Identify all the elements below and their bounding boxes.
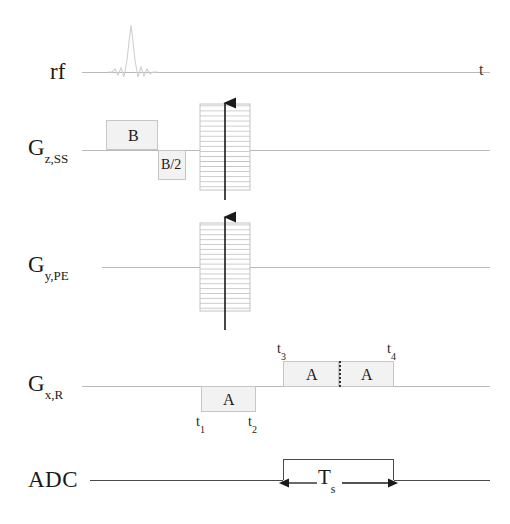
adc-duration-layer bbox=[0, 0, 510, 524]
ts-sub: s bbox=[331, 482, 336, 496]
ts-base: T bbox=[318, 465, 331, 489]
pulse-sequence-diagram: rf t Gz,SS B B/2 Gy,PE bbox=[0, 0, 510, 524]
ts-duration-label: Ts bbox=[318, 467, 336, 491]
